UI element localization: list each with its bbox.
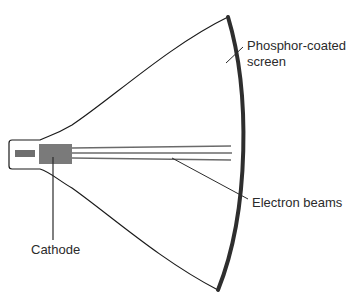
cathode-label: Cathode bbox=[31, 242, 80, 258]
beams-label: Electron beams bbox=[252, 195, 342, 211]
screen-label: Phosphor-coated screen bbox=[247, 38, 346, 70]
electrode bbox=[15, 150, 35, 157]
screen-label-line2: screen bbox=[247, 54, 346, 70]
electron-beams bbox=[72, 146, 232, 160]
screen-label-line1: Phosphor-coated bbox=[247, 38, 346, 54]
cathode-block bbox=[39, 144, 72, 164]
beams-leader-line bbox=[172, 158, 248, 199]
